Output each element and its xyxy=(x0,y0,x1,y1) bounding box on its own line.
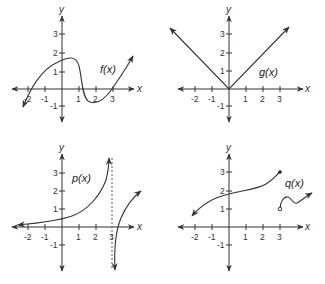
y-tick-label: -1 xyxy=(50,240,58,250)
y-tick-label: 1 xyxy=(220,204,225,214)
y-axis-label: y xyxy=(225,4,232,15)
y-axis-label: y xyxy=(58,4,65,15)
x-tick-label: 1 xyxy=(76,94,81,104)
y-tick-label: 2 xyxy=(220,186,225,196)
panel-g: -2 -1 1 2 3 -1 1 2 3 x y g(x) xyxy=(170,4,311,122)
open-dot xyxy=(278,207,282,211)
y-tick-label: 3 xyxy=(53,168,58,178)
y-tick-label: -1 xyxy=(50,101,58,111)
y-tick-label: 3 xyxy=(220,167,225,177)
function-label: g(x) xyxy=(259,66,278,78)
q-left-piece xyxy=(192,172,280,216)
y-tick-label: 2 xyxy=(220,48,225,58)
y-tick-label: 2 xyxy=(53,48,58,58)
x-tick-label: 3 xyxy=(277,94,282,104)
y-axis-label: y xyxy=(225,142,232,153)
x-tick-label: 1 xyxy=(76,232,81,242)
function-label: q(x) xyxy=(285,177,304,189)
x-tick-label: 3 xyxy=(110,94,115,104)
x-tick-label: -1 xyxy=(208,94,216,104)
y-tick-label: 1 xyxy=(53,204,58,214)
x-tick-label: -1 xyxy=(41,232,49,242)
y-tick-label: 1 xyxy=(220,66,225,76)
y-tick-label: 3 xyxy=(53,29,58,39)
x-axis-label: x xyxy=(136,221,143,232)
panel-f: -2 -1 1 2 3 -1 1 2 3 x y f(x) xyxy=(12,4,143,122)
y-tick-label: -1 xyxy=(217,101,225,111)
y-tick-label: 2 xyxy=(53,186,58,196)
x-tick-label: -2 xyxy=(191,94,199,104)
y-tick-label: 1 xyxy=(53,67,58,77)
graphs-figure: -2 -1 1 2 3 -1 1 2 3 x y f(x) -2 -1 1 2 … xyxy=(0,0,325,284)
x-tick-label: 1 xyxy=(243,94,248,104)
panel-q: -2 -1 1 2 3 -1 1 2 3 x y q(x) xyxy=(178,142,312,271)
x-tick-label: -2 xyxy=(24,232,32,242)
x-axis-label: x xyxy=(304,221,311,232)
x-tick-label: 3 xyxy=(109,232,114,242)
panel-p: -2 -1 1 2 3 -1 1 2 3 x y p(x) xyxy=(12,142,143,271)
x-tick-label: 1 xyxy=(243,232,248,242)
x-tick-label: 2 xyxy=(260,94,265,104)
function-label: p(x) xyxy=(71,172,91,184)
y-tick-label: 3 xyxy=(220,29,225,39)
x-tick-label: -1 xyxy=(41,94,49,104)
function-label: f(x) xyxy=(100,63,116,75)
x-tick-label: -1 xyxy=(208,232,216,242)
closed-dot xyxy=(278,170,282,174)
y-axis-label: y xyxy=(58,142,65,153)
x-axis-label: x xyxy=(136,83,143,94)
x-axis-label: x xyxy=(304,83,311,94)
x-tick-label: 2 xyxy=(93,232,98,242)
x-tick-label: -2 xyxy=(191,232,199,242)
x-tick-label: 2 xyxy=(260,232,265,242)
q-right-piece xyxy=(280,193,312,209)
y-tick-label: -1 xyxy=(217,240,225,250)
x-tick-label: 3 xyxy=(277,232,282,242)
